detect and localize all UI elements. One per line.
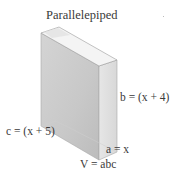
label-volume: V = abc [80, 158, 116, 170]
label-c: c = (x + 5) [6, 125, 55, 137]
label-a: a = x [106, 143, 129, 155]
label-b: b = (x + 4) [120, 91, 169, 103]
